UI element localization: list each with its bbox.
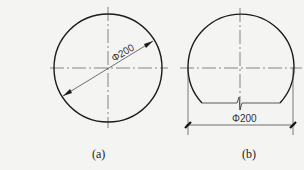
caption-b: (b) bbox=[242, 147, 256, 162]
figure-b: Φ200 bbox=[180, 8, 302, 135]
caption-a: (a) bbox=[92, 147, 105, 162]
diameter-line-a bbox=[63, 41, 153, 96]
dimension-label-a: Φ200 bbox=[109, 41, 136, 63]
break-line-b bbox=[202, 97, 280, 110]
arrow-head-icon bbox=[144, 41, 153, 48]
figure-a: Φ200 bbox=[50, 7, 168, 128]
dimension-label-b: Φ200 bbox=[232, 113, 257, 124]
drawing-canvas: Φ200 Φ200 bbox=[0, 0, 304, 170]
truncated-arc-b bbox=[188, 14, 294, 103]
arrow-head-icon bbox=[63, 89, 72, 96]
